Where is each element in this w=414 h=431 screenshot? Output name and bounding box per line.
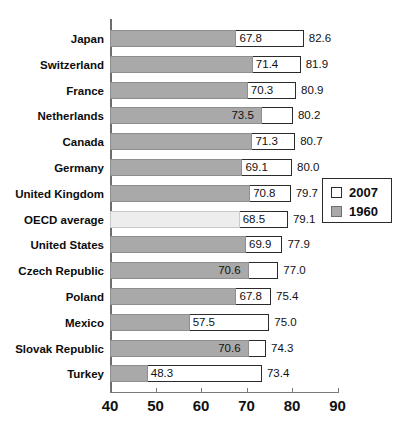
chart-row: Poland67.875.4 xyxy=(0,288,414,306)
x-tick-label-80: 80 xyxy=(272,397,312,414)
x-tick-60 xyxy=(201,388,202,393)
value-label-1960: 48.3 xyxy=(151,366,173,381)
bar-1960[interactable] xyxy=(110,288,236,305)
bar-1960[interactable] xyxy=(110,56,253,73)
chart-row: Netherlands73.580.2 xyxy=(0,107,414,125)
x-tick-label-70: 70 xyxy=(227,397,267,414)
legend-swatch-2007 xyxy=(331,187,342,198)
value-label-1960: 57.5 xyxy=(193,315,215,330)
value-label-2007: 80.9 xyxy=(301,83,323,98)
category-label-united-states: United States xyxy=(0,237,104,253)
value-label-2007: 81.9 xyxy=(306,57,328,72)
x-tick-70 xyxy=(247,388,248,393)
chart-row: Canada71.380.7 xyxy=(0,133,414,151)
category-label-germany: Germany xyxy=(0,160,104,176)
bar-1960[interactable] xyxy=(110,185,250,202)
chart-row: United States69.977.9 xyxy=(0,236,414,254)
legend-label-1960: 1960 xyxy=(349,205,378,218)
value-label-2007: 79.1 xyxy=(293,212,315,227)
category-label-poland: Poland xyxy=(0,289,104,305)
value-label-1960: 70.6 xyxy=(218,263,240,278)
category-label-czech-republic: Czech Republic xyxy=(0,263,104,279)
value-label-1960: 70.8 xyxy=(253,186,275,201)
bar-1960[interactable] xyxy=(110,30,236,47)
bar-1960[interactable] xyxy=(110,314,190,331)
value-label-1960: 69.1 xyxy=(245,160,267,175)
chart-row: Mexico57.575.0 xyxy=(0,314,414,332)
category-label-mexico: Mexico xyxy=(0,315,104,331)
chart-row: Switzerland71.481.9 xyxy=(0,56,414,74)
category-label-france: France xyxy=(0,83,104,99)
x-tick-90 xyxy=(338,388,339,393)
chart-row: Japan67.882.6 xyxy=(0,30,414,48)
value-label-1960: 68.5 xyxy=(243,212,265,227)
chart-row: Germany69.180.0 xyxy=(0,159,414,177)
bar-1960[interactable] xyxy=(110,211,240,228)
value-label-1960: 67.8 xyxy=(239,31,261,46)
x-tick-label-60: 60 xyxy=(181,397,221,414)
legend-label-2007: 2007 xyxy=(349,186,378,199)
x-tick-label-90: 90 xyxy=(318,397,358,414)
value-label-2007: 73.4 xyxy=(267,366,289,381)
value-label-1960: 70.3 xyxy=(251,83,273,98)
category-label-oecd-average: OECD average xyxy=(0,212,104,228)
chart-row: Czech Republic70.677.0 xyxy=(0,262,414,280)
value-label-2007: 82.6 xyxy=(309,31,331,46)
category-label-canada: Canada xyxy=(0,134,104,150)
chart-row: Turkey48.373.4 xyxy=(0,365,414,383)
category-label-japan: Japan xyxy=(0,31,104,47)
value-label-2007: 79.7 xyxy=(296,186,318,201)
value-label-2007: 77.9 xyxy=(287,237,309,252)
value-label-1960: 69.9 xyxy=(249,237,271,252)
value-label-2007: 74.3 xyxy=(271,341,293,356)
value-label-1960: 70.6 xyxy=(218,341,240,356)
x-tick-80 xyxy=(292,388,293,393)
value-label-2007: 80.2 xyxy=(298,108,320,123)
bar-1960[interactable] xyxy=(110,365,148,382)
category-label-switzerland: Switzerland xyxy=(0,57,104,73)
x-tick-50 xyxy=(156,388,157,393)
category-label-united-kingdom: United Kingdom xyxy=(0,186,104,202)
value-label-1960: 71.3 xyxy=(255,134,277,149)
bar-chart: Japan67.882.6Switzerland71.481.9France70… xyxy=(0,0,414,431)
value-label-1960: 71.4 xyxy=(256,57,278,72)
value-label-2007: 75.0 xyxy=(274,315,296,330)
value-label-2007: 77.0 xyxy=(283,263,305,278)
bar-1960[interactable] xyxy=(110,159,242,176)
value-label-2007: 80.7 xyxy=(300,134,322,149)
bar-1960[interactable] xyxy=(110,82,248,99)
x-axis-line xyxy=(110,392,338,393)
value-label-2007: 75.4 xyxy=(276,289,298,304)
value-label-2007: 80.0 xyxy=(297,160,319,175)
chart-row: Slovak Republic70.674.3 xyxy=(0,340,414,358)
x-tick-label-40: 40 xyxy=(90,397,130,414)
x-tick-label-50: 50 xyxy=(136,397,176,414)
category-label-turkey: Turkey xyxy=(0,366,104,382)
legend-swatch-1960 xyxy=(331,206,342,217)
chart-legend: 2007 1960 xyxy=(322,178,392,223)
chart-row: France70.380.9 xyxy=(0,82,414,100)
legend-item-2007[interactable]: 2007 xyxy=(331,184,391,201)
bar-1960[interactable] xyxy=(110,236,246,253)
x-tick-40 xyxy=(110,388,111,393)
legend-item-1960[interactable]: 1960 xyxy=(331,203,391,220)
bar-1960[interactable] xyxy=(110,133,252,150)
category-label-slovak-republic: Slovak Republic xyxy=(0,341,104,357)
value-label-1960: 67.8 xyxy=(239,289,261,304)
category-label-netherlands: Netherlands xyxy=(0,108,104,124)
value-label-1960: 73.5 xyxy=(231,108,253,123)
